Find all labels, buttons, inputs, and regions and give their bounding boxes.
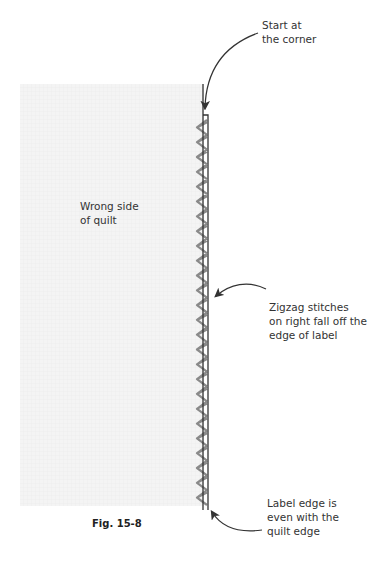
edge-callout-label: Label edge is even with the quilt edge bbox=[267, 496, 339, 538]
zigzag-arrow bbox=[216, 284, 266, 296]
edge-arrow bbox=[212, 512, 262, 531]
figure-caption: Fig. 15-8 bbox=[92, 518, 142, 529]
quilt-wrong-side bbox=[20, 84, 204, 506]
quilt-label-diagram bbox=[0, 0, 386, 573]
start-arrow bbox=[205, 33, 258, 108]
start-callout-label: Start at the corner bbox=[262, 18, 316, 46]
quilt-side-label: Wrong side of quilt bbox=[80, 199, 139, 227]
zigzag-callout-label: Zigzag stitches on right fall off the ed… bbox=[269, 300, 367, 342]
